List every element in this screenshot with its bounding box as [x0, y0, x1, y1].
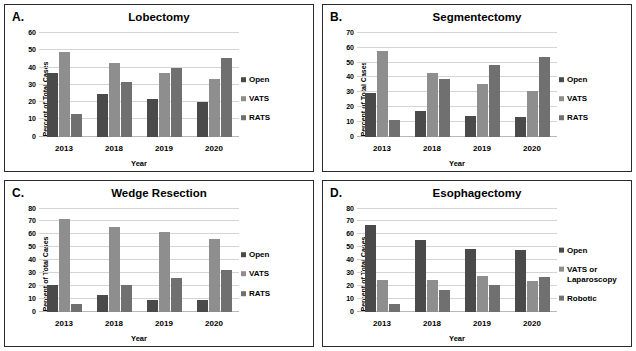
- legend-label: RATS: [567, 113, 588, 122]
- bar-groups: [357, 209, 557, 313]
- x-axis-tick: 2019: [457, 319, 507, 328]
- bar: [71, 114, 82, 137]
- bar: [221, 58, 232, 136]
- plot-area: Percent of Total Cases010203040506070802…: [5, 203, 313, 347]
- y-axis-tick: 50: [346, 58, 354, 65]
- x-axis-tick: 2013: [39, 144, 89, 153]
- bar: [171, 68, 182, 137]
- y-axis-tick: 10: [28, 295, 36, 302]
- legend-label: VATS or Laparoscopy: [567, 265, 627, 283]
- bar: [171, 278, 182, 312]
- bar: [147, 300, 158, 312]
- y-axis-tick: 50: [28, 243, 36, 250]
- legend-label: Open: [249, 250, 269, 259]
- bar: [389, 304, 400, 312]
- legend-item[interactable]: RATS: [241, 289, 309, 298]
- legend-swatch-icon: [241, 77, 246, 82]
- plot-canvas: 010203040506070: [357, 33, 557, 137]
- y-axis-tick: 30: [28, 269, 36, 276]
- legend-swatch-icon: [559, 115, 564, 120]
- bar-groups: [357, 33, 557, 137]
- bar: [221, 270, 232, 312]
- bar: [489, 285, 500, 312]
- bar-groups: [39, 209, 239, 313]
- bar: [515, 117, 526, 137]
- plot-area: Percent of Total Cases010203040506070201…: [323, 27, 631, 171]
- bar: [59, 52, 70, 137]
- legend-item[interactable]: Robotic: [559, 293, 627, 302]
- legend-item[interactable]: Open: [241, 250, 309, 259]
- figure-grid: A.LobectomyPercent of Total Cases0102030…: [0, 0, 636, 351]
- bar-group: [139, 209, 189, 313]
- bar: [121, 82, 132, 136]
- bar: [465, 116, 476, 137]
- chart-panel-c: C.Wedge ResectionPercent of Total Cases0…: [4, 180, 314, 348]
- bar: [109, 63, 120, 136]
- legend-swatch-icon: [241, 291, 246, 296]
- y-axis-tick: 0: [32, 132, 36, 139]
- legend-item[interactable]: VATS: [241, 94, 309, 103]
- y-axis-tick: 60: [346, 43, 354, 50]
- legend-item[interactable]: VATS or Laparoscopy: [559, 265, 627, 283]
- bar-group: [89, 209, 139, 313]
- legend-item[interactable]: VATS: [559, 94, 627, 103]
- x-axis-tick: 2018: [407, 144, 457, 153]
- x-axis-ticks: 2013201820192020: [39, 144, 239, 153]
- legend-item[interactable]: RATS: [241, 113, 309, 122]
- chart-panel-d: D.EsophagectomyPercent of Total Cases010…: [322, 180, 632, 348]
- legend-item[interactable]: Open: [241, 75, 309, 84]
- bar-group: [507, 209, 557, 313]
- x-axis-title: Year: [357, 159, 557, 168]
- bar-group: [39, 209, 89, 313]
- panel-title: Wedge Resection: [5, 187, 313, 199]
- legend-swatch-icon: [241, 252, 246, 257]
- bar-group: [457, 33, 507, 137]
- bar: [377, 51, 388, 136]
- bar: [209, 239, 220, 312]
- x-axis-tick: 2020: [507, 144, 557, 153]
- bar: [47, 73, 58, 137]
- bar: [439, 79, 450, 137]
- panel-title: Lobectomy: [5, 11, 313, 23]
- y-axis-tick: 40: [346, 256, 354, 263]
- bar: [389, 120, 400, 137]
- bar: [47, 285, 58, 312]
- legend-item[interactable]: RATS: [559, 113, 627, 122]
- y-axis-tick: 30: [346, 88, 354, 95]
- y-axis-tick: 20: [28, 282, 36, 289]
- bar-groups: [39, 33, 239, 137]
- x-axis-tick: 2013: [39, 319, 89, 328]
- bar: [209, 79, 220, 137]
- legend-swatch-icon: [559, 267, 564, 272]
- y-axis-tick: 50: [28, 46, 36, 53]
- bar: [159, 73, 170, 137]
- bar: [439, 290, 450, 312]
- legend-item[interactable]: VATS: [241, 270, 309, 279]
- bar: [527, 281, 538, 312]
- y-axis-tick: 30: [346, 269, 354, 276]
- bar: [109, 227, 120, 312]
- y-axis-tick: 60: [28, 230, 36, 237]
- y-axis-tick: 70: [28, 217, 36, 224]
- plot-canvas: 01020304050607080: [357, 209, 557, 313]
- legend-swatch-icon: [559, 295, 564, 300]
- bar-group: [407, 33, 457, 137]
- x-axis-ticks: 2013201820192020: [357, 319, 557, 328]
- chart-legend: OpenVATS or LaparoscopyRobotic: [559, 241, 627, 308]
- y-axis-tick: 10: [28, 115, 36, 122]
- y-axis-tick: 30: [28, 80, 36, 87]
- legend-item[interactable]: Open: [559, 246, 627, 255]
- legend-item[interactable]: Open: [559, 75, 627, 84]
- chart-panel-b: B.SegmentectomyPercent of Total Cases010…: [322, 4, 632, 172]
- x-axis-tick: 2020: [507, 319, 557, 328]
- bar: [465, 249, 476, 312]
- legend-swatch-icon: [241, 272, 246, 277]
- legend-label: Robotic: [567, 293, 597, 302]
- y-axis-tick: 80: [346, 204, 354, 211]
- bar-group: [457, 209, 507, 313]
- x-axis-tick: 2019: [457, 144, 507, 153]
- y-axis-tick: 20: [28, 98, 36, 105]
- legend-label: Open: [249, 75, 269, 84]
- x-axis-tick: 2018: [89, 319, 139, 328]
- y-axis-tick: 0: [350, 132, 354, 139]
